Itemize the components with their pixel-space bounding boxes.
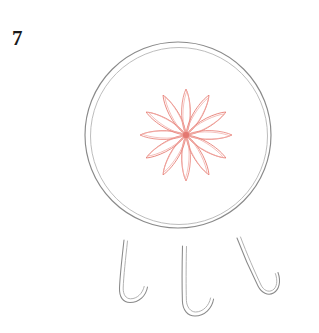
center-leg-inner-path <box>186 247 210 313</box>
flower-center <box>183 132 189 138</box>
left-leg <box>119 240 147 303</box>
tabletop-circle <box>85 42 271 228</box>
right-leg <box>237 237 280 294</box>
line-drawing <box>0 0 319 333</box>
legs-group <box>119 237 279 316</box>
figure-canvas: 7 <box>0 0 319 333</box>
right-leg-path <box>237 238 280 294</box>
center-leg-path <box>182 246 213 316</box>
tabletop-outer-circle <box>85 42 271 228</box>
table-group <box>85 42 280 316</box>
right-leg-inner-path <box>241 237 277 291</box>
left-leg-inner-path <box>123 241 144 299</box>
center-leg <box>182 246 213 316</box>
flower-rosette <box>140 89 232 181</box>
